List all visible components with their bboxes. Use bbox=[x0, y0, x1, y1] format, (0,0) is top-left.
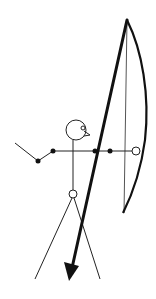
arrow-shaft bbox=[72, 20, 127, 268]
drawing-arm bbox=[15, 143, 53, 161]
elbow-joint-right bbox=[108, 149, 113, 154]
arrowhead-icon bbox=[64, 262, 79, 281]
archer-diagram bbox=[0, 0, 156, 299]
bow-string bbox=[124, 20, 127, 213]
hip-joint bbox=[69, 190, 77, 198]
shoulder-joint-left bbox=[51, 149, 56, 154]
eye-icon bbox=[81, 126, 85, 130]
elbow-joint bbox=[36, 159, 41, 164]
bow-hand-joint bbox=[132, 147, 140, 155]
